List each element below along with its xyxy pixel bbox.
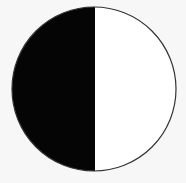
half-shaded-circle-diagram: [0, 0, 186, 183]
